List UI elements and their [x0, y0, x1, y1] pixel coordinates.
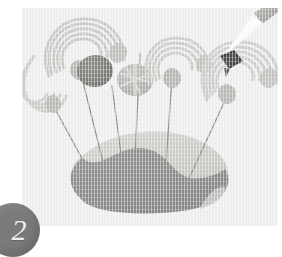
illustration-panel [22, 8, 278, 226]
tweezers-tool [222, 8, 278, 58]
step-number: 2 [0, 203, 40, 257]
scene-svg [22, 8, 278, 226]
pin-head-center [162, 67, 183, 89]
step-badge: 2 [0, 203, 40, 257]
swirl-specimen-right [202, 42, 278, 106]
pin-head-right [216, 82, 238, 105]
disc-specimen-dark [75, 53, 115, 90]
